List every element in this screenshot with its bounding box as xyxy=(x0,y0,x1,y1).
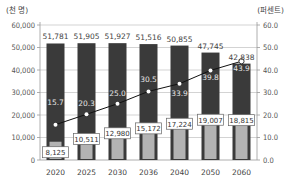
chart: (천 명) (퍼센트) 010,00020,00030,00040,00050,… xyxy=(0,0,291,183)
left-tick-label: 60,000 xyxy=(11,21,35,30)
elderly-value-label: 15,172 xyxy=(136,125,161,133)
ratio-value-label: 20.3 xyxy=(78,99,95,108)
left-axis-unit: (천 명) xyxy=(6,5,28,15)
ratio-marker xyxy=(147,89,151,93)
x-axis-labels: 2020202520302036204020502060 xyxy=(46,168,251,177)
x-tick-label: 2036 xyxy=(139,168,158,177)
elderly-value-label: 18,815 xyxy=(229,117,254,125)
total-value-label: 47,745 xyxy=(197,42,223,51)
x-tick-label: 2060 xyxy=(232,168,251,177)
total-value-label: 51,905 xyxy=(73,32,99,41)
x-tick-label: 2025 xyxy=(77,168,96,177)
ratio-value-label: 33.9 xyxy=(171,89,188,98)
ratio-value-label: 30.5 xyxy=(140,75,157,84)
elderly-value-label: 19,007 xyxy=(198,117,223,125)
ratio-value-label: 25.0 xyxy=(109,89,126,98)
total-value-label: 42,838 xyxy=(228,53,254,62)
elderly-value-label: 12,980 xyxy=(105,130,130,138)
ratio-marker xyxy=(178,82,182,86)
left-tick-label: 20,000 xyxy=(11,111,35,120)
ratio-value-label: 43.9 xyxy=(233,64,250,73)
elderly-value-label: 8,125 xyxy=(45,149,65,157)
left-tick-label: 50,000 xyxy=(11,43,35,52)
right-tick-label: 40.0 xyxy=(263,66,278,75)
left-tick-label: 30,000 xyxy=(11,88,35,97)
ratio-value-label: 39.8 xyxy=(202,73,219,82)
right-tick-label: 10.0 xyxy=(263,133,278,142)
total-value-label: 51,927 xyxy=(104,32,130,41)
right-axis-unit: (퍼센트) xyxy=(257,5,284,15)
left-tick-label: 40,000 xyxy=(11,66,35,75)
x-tick-label: 2020 xyxy=(46,168,65,177)
ratio-marker xyxy=(116,102,120,106)
left-tick-label: 0 xyxy=(31,156,35,165)
total-value-label: 51,781 xyxy=(42,32,68,41)
left-tick-label: 10,000 xyxy=(11,133,35,142)
x-tick-label: 2050 xyxy=(201,168,220,177)
right-axis-ticks: 0.010.020.030.040.050.060.0 xyxy=(263,21,278,165)
right-tick-label: 20.0 xyxy=(263,111,278,120)
right-tick-label: 50.0 xyxy=(263,43,278,52)
total-value-label: 51,516 xyxy=(135,33,161,42)
elderly-value-label: 17,224 xyxy=(167,121,192,129)
right-tick-label: 0.0 xyxy=(263,156,274,165)
total-value-label: 50,855 xyxy=(166,35,192,44)
x-tick-label: 2030 xyxy=(108,168,127,177)
ratio-marker xyxy=(209,68,213,72)
x-tick-label: 2040 xyxy=(170,168,189,177)
ratio-marker xyxy=(54,123,58,127)
left-axis-ticks: 010,00020,00030,00040,00050,00060,000 xyxy=(11,21,35,165)
elderly-value-label: 10,511 xyxy=(74,136,99,144)
right-tick-label: 60.0 xyxy=(263,21,278,30)
ratio-marker xyxy=(85,112,89,116)
right-tick-label: 30.0 xyxy=(263,88,278,97)
ratio-value-label: 15.7 xyxy=(47,98,64,107)
